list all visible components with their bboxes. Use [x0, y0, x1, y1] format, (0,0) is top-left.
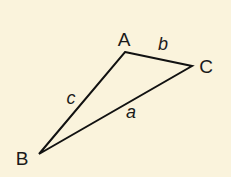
vertex-label-c: C [199, 56, 213, 77]
side-label-a: a [126, 102, 136, 122]
triangle-abc [39, 52, 192, 154]
side-label-b: b [158, 34, 168, 54]
triangle-diagram: A B C a b c [0, 0, 231, 177]
vertex-label-b: B [16, 148, 29, 169]
vertex-label-a: A [118, 29, 131, 50]
side-label-c: c [67, 88, 76, 108]
triangle-svg: A B C a b c [0, 0, 231, 177]
